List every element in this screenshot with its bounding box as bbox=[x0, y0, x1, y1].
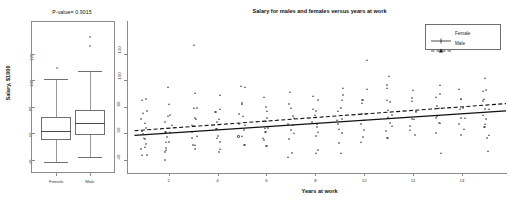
boxplot-iqr-box bbox=[41, 117, 71, 139]
boxplot-whisker-cap bbox=[78, 157, 102, 158]
scatter-y-tick-mark bbox=[124, 160, 127, 161]
legend-item-female: Female bbox=[430, 28, 470, 38]
scatter-y-tick-mark bbox=[124, 80, 127, 81]
boxplot-title: P-value= 0.9015 bbox=[22, 9, 122, 15]
scatter-y-tick-label: 100 bbox=[117, 73, 122, 80]
scatter-y-tick-label: 120 bbox=[117, 46, 122, 53]
scatter-y-tick-label: 40 bbox=[116, 155, 121, 160]
regression-line-female bbox=[134, 111, 506, 135]
boxplot-outlier bbox=[56, 67, 58, 69]
legend: Female Male bbox=[425, 24, 501, 50]
legend-swatch-female-icon bbox=[430, 30, 452, 36]
boxplot-whisker-cap bbox=[78, 71, 102, 72]
scatter-y-tick-mark bbox=[124, 107, 127, 108]
scatter-y-tick-mark bbox=[124, 133, 127, 134]
boxplot-panel: P-value= 0.9015 Salary, $1000 4060801001… bbox=[0, 0, 130, 204]
scatter-y-tick-label: 60 bbox=[116, 128, 121, 133]
scatter-panel: Salary for males and females versus year… bbox=[130, 0, 509, 204]
figure-canvas: P-value= 0.9015 Salary, $1000 4060801001… bbox=[0, 0, 509, 204]
boxplot-x-axis-labels: FemaleMale bbox=[31, 176, 115, 186]
legend-item-male: Male bbox=[430, 38, 465, 48]
boxplot-y-axis-ticks: 406080100120 bbox=[16, 21, 31, 173]
boxplot-y-axis-label: Salary, $1000 bbox=[5, 53, 11, 113]
scatter-y-tick-label: 80 bbox=[116, 102, 121, 107]
boxplot-whisker-cap bbox=[44, 79, 68, 80]
regression-line-male bbox=[134, 104, 506, 131]
legend-swatch-male-icon bbox=[430, 40, 452, 46]
legend-label-male: Male bbox=[455, 41, 465, 46]
scatter-x-axis-label: Years at work bbox=[130, 188, 509, 194]
scatter-y-axis-line bbox=[127, 21, 128, 173]
boxplot-median-line bbox=[41, 131, 71, 132]
boxplot-whisker-cap bbox=[44, 162, 68, 163]
boxplot-x-tick-label-female: Female bbox=[49, 179, 63, 184]
boxplot-x-tick-mark bbox=[90, 173, 91, 176]
boxplot-x-tick-label-male: Male bbox=[85, 179, 94, 184]
boxplot-median-line bbox=[75, 123, 105, 124]
boxplot-plot-frame bbox=[31, 21, 115, 173]
boxplot-x-tick-mark bbox=[56, 173, 57, 176]
scatter-y-tick-mark bbox=[124, 54, 127, 55]
legend-label-female: Female bbox=[455, 31, 470, 36]
